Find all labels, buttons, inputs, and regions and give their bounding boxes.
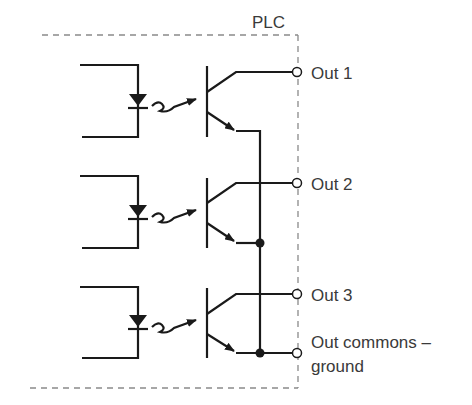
led-input-wire-3 [80, 287, 138, 358]
output-stage-1 [80, 65, 294, 353]
terminal-out-3 [293, 290, 302, 299]
out-1-label: Out 1 [311, 64, 353, 83]
light-arrow-icon-2 [152, 210, 196, 223]
emitter-1 [207, 112, 234, 130]
output-stage-2 [80, 176, 294, 248]
led-icon-2 [129, 205, 147, 217]
led-input-wire-2 [80, 176, 138, 248]
emitter-3 [207, 334, 234, 351]
emitter-2 [207, 223, 234, 241]
led-icon-3 [129, 315, 147, 327]
light-arrow-icon-3 [152, 320, 196, 333]
common-label-line1: Out commons – [311, 333, 432, 352]
output-stage-3 [80, 287, 294, 358]
collector-2 [207, 183, 294, 203]
plc-label: PLC [252, 13, 285, 32]
led-input-wire-1 [80, 65, 138, 137]
collector-3 [207, 294, 294, 314]
junction-dot-2 [256, 239, 265, 248]
plc-output-diagram: PLC Out 1 Out 2 [0, 0, 472, 405]
led-icon-1 [129, 94, 147, 106]
terminal-common-ground [293, 349, 302, 358]
junction-dot-3 [256, 349, 265, 358]
common-label-line2: ground [311, 357, 364, 376]
terminal-out-1 [293, 68, 302, 77]
plc-boundary [30, 35, 298, 388]
light-arrow-icon-1 [152, 99, 196, 112]
out-3-label: Out 3 [311, 286, 353, 305]
terminal-out-2 [293, 179, 302, 188]
out-2-label: Out 2 [311, 175, 353, 194]
collector-1 [207, 72, 294, 92]
